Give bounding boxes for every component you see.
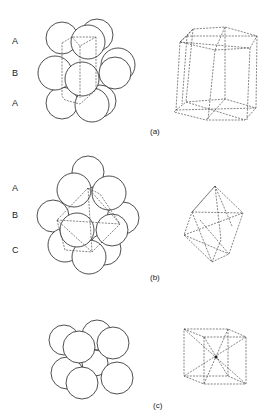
ccp-unit-cell <box>184 186 243 262</box>
diagram-graphics <box>0 0 263 411</box>
bcc-unit-cell <box>184 329 246 384</box>
hcp-sphere-stack <box>38 19 135 122</box>
hcp-unit-cell <box>174 27 257 120</box>
ccp-sphere-stack <box>37 156 139 274</box>
bcc-sphere-stack <box>49 320 133 399</box>
